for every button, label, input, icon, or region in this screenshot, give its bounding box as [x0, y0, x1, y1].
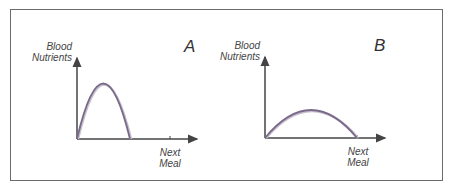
panel-a-curve — [77, 84, 130, 140]
panel-a-x-label-line1: Next — [155, 147, 185, 158]
panel-b-graph — [265, 57, 385, 138]
diagram-canvas — [0, 0, 453, 191]
panel-b-x-label: Next Meal — [343, 146, 373, 168]
panel-b-letter: B — [374, 36, 385, 56]
panel-a-graph — [77, 58, 197, 139]
panel-a-letter: A — [184, 37, 195, 57]
panel-b-curve — [265, 110, 357, 138]
panel-b-y-label: Blood Nutrients — [210, 40, 260, 62]
panel-a-y-label: Blood Nutrients — [22, 41, 72, 63]
panel-b-y-label-line1: Blood — [210, 40, 260, 51]
panel-b-y-label-line2: Nutrients — [210, 51, 260, 62]
panel-a-y-label-line1: Blood — [22, 41, 72, 52]
panel-a-y-label-line2: Nutrients — [22, 52, 72, 63]
panel-a-x-label: Next Meal — [155, 147, 185, 169]
panel-a-x-label-line2: Meal — [155, 158, 185, 169]
panel-b-x-label-line2: Meal — [343, 157, 373, 168]
panel-b-x-label-line1: Next — [343, 146, 373, 157]
